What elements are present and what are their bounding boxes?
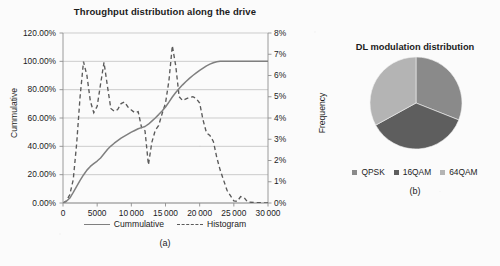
legend-label-histogram: Histogram [207, 219, 246, 229]
y-tick-right-4: 4% [274, 113, 304, 123]
legend-item-histogram: Histogram [177, 219, 246, 229]
y-tick-right-3: 3% [274, 134, 304, 144]
legend-item-qpsk: QPSK [352, 167, 384, 177]
y-tick-right-8: 8% [274, 28, 304, 38]
series-cummulative-line [63, 61, 268, 203]
chart-gridlines [63, 33, 268, 203]
legend-swatch-64qam [440, 170, 445, 175]
panel-b-pie-chart: DL modulation distribution QPSK 16QAM 64… [330, 0, 500, 266]
series-histogram-line [63, 46, 268, 203]
panel-a-line-chart: Throughput distribution along the drive … [0, 0, 330, 266]
legend-swatch-16qam [394, 170, 399, 175]
pie-chart-canvas [368, 55, 464, 151]
caption-panel-a: (a) [0, 238, 330, 248]
y-tick-left-4: 80.00% [6, 84, 56, 94]
legend-label-64qam: 64QAM [449, 167, 477, 177]
y-tick-right-1: 1% [274, 176, 304, 186]
legend-item-cummulative: Cummulative [84, 219, 164, 229]
y-tick-right-2: 2% [274, 155, 304, 165]
axis-tickmarks [60, 33, 272, 207]
y-tick-left-1: 20.00% [6, 169, 56, 179]
legend-label-cummulative: Cummulative [114, 219, 164, 229]
y-tick-left-6: 120.00% [6, 28, 56, 38]
y-tick-right-5: 5% [274, 91, 304, 101]
legend-item-64qam: 64QAM [440, 167, 477, 177]
caption-panel-b: (b) [330, 186, 500, 196]
legend-swatch-solid-line [84, 224, 110, 225]
legend-label-qpsk: QPSK [361, 167, 384, 177]
chart-title-b: DL modulation distribution [330, 42, 500, 52]
legend-swatch-dashed-line [177, 224, 203, 225]
x-tick-6: 30 000 [238, 208, 298, 218]
y-tick-right-0: 0% [274, 198, 304, 208]
y-tick-left-3: 60.00% [6, 113, 56, 123]
legend-panel-a: Cummulative Histogram [0, 219, 330, 229]
legend-item-16qam: 16QAM [394, 167, 431, 177]
figure-root: Throughput distribution along the drive … [0, 0, 500, 266]
legend-label-16qam: 16QAM [403, 167, 431, 177]
legend-panel-b: QPSK 16QAM 64QAM [330, 167, 500, 177]
pie-slice-group [370, 57, 462, 149]
y-tick-left-5: 100.00% [6, 56, 56, 66]
y-tick-right-7: 7% [274, 49, 304, 59]
y-tick-right-6: 6% [274, 70, 304, 80]
y-axis-right-title: Frequency [317, 68, 327, 158]
y-tick-left-2: 40.00% [6, 141, 56, 151]
y-tick-left-0: 0.00% [6, 198, 56, 208]
legend-swatch-qpsk [352, 170, 357, 175]
